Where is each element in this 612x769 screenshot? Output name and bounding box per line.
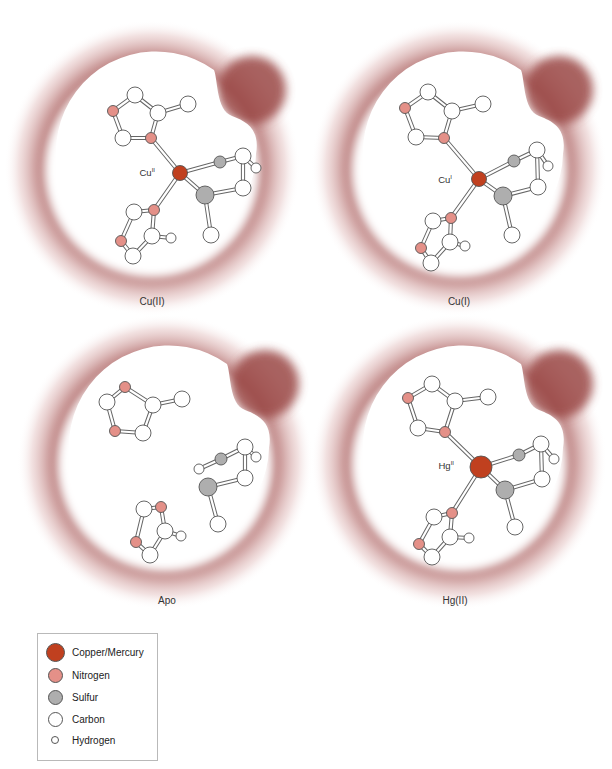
legend-label: Carbon [72, 714, 105, 725]
hydrogen-atom [549, 454, 559, 464]
carbon-atom [174, 391, 190, 407]
carbon-atom [426, 509, 442, 525]
carbon-atom [135, 425, 151, 441]
nitrogen-atom [400, 103, 411, 114]
carbon-atom [534, 471, 550, 487]
nitrogen-atom [156, 502, 167, 513]
panel-apo: Apo [17, 314, 313, 610]
legend-item-nitrogen: Nitrogen [38, 665, 110, 685]
hydrogen-atom [166, 233, 176, 243]
panel-label: Cu(I) [448, 296, 470, 307]
nitrogen-atom [403, 393, 414, 404]
sulfur-atom [496, 481, 514, 499]
carbon-atom [442, 529, 458, 545]
sulfur-swatch-icon [48, 690, 63, 705]
carbon-atom [408, 129, 424, 145]
carbon-atom [235, 148, 251, 164]
hydrogen-atom [543, 161, 553, 171]
pocket-notch [525, 350, 593, 418]
nitrogen-atom [416, 243, 427, 254]
legend-label: Hydrogen [72, 735, 115, 746]
legend: Copper/MercuryNitrogenSulfurCarbonHydrog… [37, 633, 158, 761]
hydrogen-atom [194, 464, 204, 474]
panel-hg2: HgIIHg(II) [311, 314, 607, 610]
panel-label: Hg(II) [443, 595, 468, 606]
nitrogen-atom [108, 106, 119, 117]
hydrogen-atom [464, 533, 474, 543]
carbon-atom [410, 420, 426, 436]
sulfur-atom [196, 186, 214, 204]
carbon-atom [157, 523, 173, 539]
legend-item-carbon: Carbon [38, 709, 105, 729]
carbon-atom [507, 519, 523, 535]
panels-layer: CuIICu(II)CuICu(I)ApoHgIIHg(II) [4, 20, 607, 610]
sulfur-atom [214, 156, 226, 168]
metal-swatch-icon [46, 643, 65, 662]
nitrogen-atom [439, 133, 450, 144]
metal-label: CuI [438, 174, 452, 185]
carbon-atom [150, 105, 166, 121]
carbon-atom [237, 439, 253, 455]
carbon-atom [125, 248, 141, 264]
legend-label: Nitrogen [72, 670, 110, 681]
metal-atom [173, 166, 188, 181]
legend-label: Sulfur [72, 692, 98, 703]
hydrogen-atom [251, 452, 261, 462]
carbon-atom [530, 179, 546, 195]
carbon-atom [424, 549, 440, 565]
carbon-atom [442, 234, 458, 250]
carbon-atom [145, 397, 161, 413]
carbon-atom [237, 470, 253, 486]
carbon-atom [475, 96, 491, 112]
panel-cu1: CuICu(I) [311, 20, 607, 316]
sulfur-atom [508, 155, 520, 167]
nitrogen-atom [146, 133, 157, 144]
carbon-atom [210, 516, 226, 532]
carbon-atom [423, 255, 439, 271]
hydrogen-atom [251, 163, 261, 173]
legend-item-sulfur: Sulfur [38, 687, 98, 707]
hydrogen-atom [460, 241, 470, 251]
carbon-atom [533, 436, 549, 452]
carbon-atom [424, 376, 440, 392]
carbon-atom [144, 228, 160, 244]
metal-atom [470, 456, 492, 478]
carbon-atom [99, 394, 115, 410]
carbon-atom [480, 389, 496, 405]
nitrogen-atom [414, 539, 425, 550]
carbon-atom [142, 547, 158, 563]
carbon-atom [127, 87, 143, 103]
sulfur-atom [199, 478, 217, 496]
panel-cu2: CuIICu(II) [4, 20, 300, 316]
carbon-atom [504, 227, 520, 243]
nitrogen-atom [110, 426, 121, 437]
legend-item-metal: Copper/Mercury [38, 642, 144, 662]
carbon-atom [420, 84, 436, 100]
panel-label: Cu(II) [140, 296, 165, 307]
metal-atom [472, 172, 487, 187]
nitrogen-atom [446, 213, 457, 224]
nitrogen-swatch-icon [48, 668, 63, 683]
legend-item-hydrogen: Hydrogen [38, 730, 115, 750]
carbon-atom [136, 501, 152, 517]
carbon-atom [126, 204, 142, 220]
nitrogen-atom [120, 382, 131, 393]
carbon-atom [529, 142, 545, 158]
hydrogen-atom [176, 531, 186, 541]
nitrogen-atom [149, 205, 160, 216]
nitrogen-atom [440, 427, 451, 438]
pocket-notch [218, 56, 286, 124]
pocket-notch [231, 350, 299, 418]
nitrogen-atom [131, 537, 142, 548]
carbon-atom [180, 96, 196, 112]
sulfur-atom [494, 187, 512, 205]
carbon-atom [447, 393, 463, 409]
hydrogen-swatch-icon [51, 736, 59, 744]
pocket-notch [525, 56, 593, 124]
sulfur-atom [513, 449, 525, 461]
carbon-atom [235, 180, 251, 196]
sulfur-atom [215, 453, 227, 465]
carbon-atom [203, 227, 219, 243]
carbon-atom [444, 103, 460, 119]
legend-label: Copper/Mercury [72, 647, 144, 658]
